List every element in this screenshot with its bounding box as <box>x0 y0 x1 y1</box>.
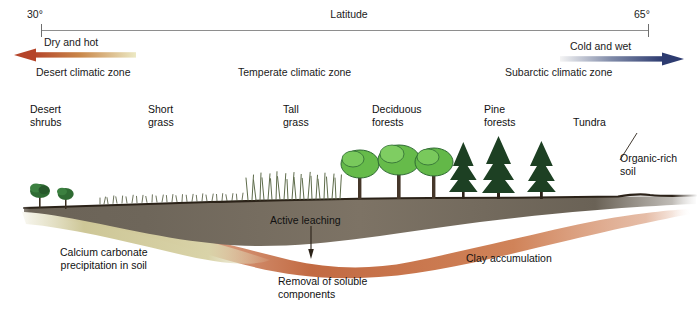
annotation-removal-soluble: Removal of soluble components <box>278 275 367 300</box>
latitude-axis-title: Latitude <box>0 8 698 20</box>
annotation-organic-rich-soil: Organic-rich soil <box>620 152 677 177</box>
vegetation-label-deciduous-forests: Deciduous forests <box>372 103 422 128</box>
vegetation-label-desert-shrubs: Desert shrubs <box>30 103 62 128</box>
climatic-zone-desert: Desert climatic zone <box>36 66 131 78</box>
vegetation-label-tall-grass: Tall grass <box>283 103 309 128</box>
tall-grass-illustration <box>246 172 341 200</box>
vegetation-label-pine-forests: Pine forests <box>484 103 516 128</box>
latitude-tick-right <box>648 24 649 37</box>
dry-and-hot-label: Dry and hot <box>44 36 98 48</box>
vegetation-label-short-grass: Short grass <box>148 103 174 128</box>
annotation-clay-accumulation: Clay accumulation <box>466 252 552 265</box>
deciduous-trees-illustration <box>341 145 453 199</box>
cold-and-wet-arrow <box>560 52 684 66</box>
climatic-zone-temperate: Temperate climatic zone <box>238 66 351 78</box>
annotation-calcium-carbonate: Calcium carbonate precipitation in soil <box>60 246 148 271</box>
vegetation-label-tundra: Tundra <box>573 116 606 129</box>
latitude-tick-left <box>41 24 42 37</box>
dry-and-hot-arrow <box>14 48 136 62</box>
climatic-zone-subarctic: Subarctic climatic zone <box>505 66 612 78</box>
cold-and-wet-label: Cold and wet <box>570 40 631 52</box>
latitude-axis-line <box>41 30 649 31</box>
desert-shrubs-illustration <box>30 183 74 209</box>
annotation-active-leaching: Active leaching <box>270 214 341 227</box>
pine-trees-illustration <box>449 136 556 199</box>
